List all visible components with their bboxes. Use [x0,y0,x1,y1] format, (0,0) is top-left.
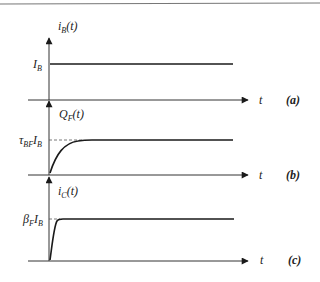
panel-c: iC(t) βFIB t (c) [22,177,301,267]
qf-exponential-trace [50,140,233,173]
waveform-diagram: iB(t) IB t (a) QF(t) τBFIB t (b) iC(t) β… [0,0,320,282]
x-axis-label-a: t [259,93,263,107]
level-label-ib: IB [32,57,42,73]
level-label-tau-bf-ib: τBFIB [19,133,42,149]
frame-top-border [0,3,320,4]
panel-tag-b: (b) [286,168,300,182]
panel-a: iB(t) IB t (a) [28,19,300,107]
level-label-beta-f-ib: βFIB [22,212,43,228]
x-axis-label-b: t [259,168,263,182]
panel-tag-c: (c) [288,253,301,267]
y-axis-label-c: iC(t) [58,184,78,200]
x-axis-label-c: t [260,253,264,267]
y-axis-label-b: QF(t) [59,107,84,123]
y-axis-label-a: iB(t) [58,19,78,35]
panel-tag-a: (a) [286,93,300,107]
panel-b: QF(t) τBFIB t (b) [19,101,300,182]
ic-exponential-trace [50,219,234,260]
